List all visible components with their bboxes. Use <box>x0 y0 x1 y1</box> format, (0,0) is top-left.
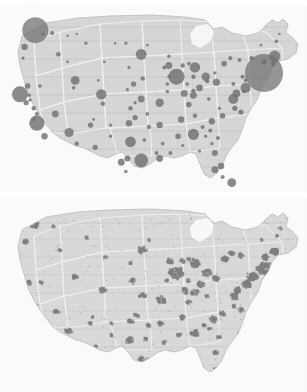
metro-circle <box>201 125 205 129</box>
metro-circle <box>169 69 185 85</box>
urban-patch <box>23 297 29 304</box>
metro-circle <box>38 84 42 88</box>
metro-circle <box>269 51 280 62</box>
metro-circle <box>141 76 145 80</box>
metro-circle <box>128 106 132 110</box>
metro-circle <box>213 71 216 74</box>
metro-circle <box>127 66 130 69</box>
metro-circle <box>190 92 197 99</box>
us-map-circles-svg <box>0 6 307 192</box>
metro-circle <box>32 118 35 121</box>
metro-circle <box>124 156 130 162</box>
metro-circle <box>207 97 211 101</box>
metro-circle <box>181 144 184 147</box>
metro-circle <box>25 83 31 89</box>
metro-circle <box>35 112 39 116</box>
metro-circle <box>165 62 172 69</box>
metro-circle <box>201 72 209 80</box>
metro-circle <box>142 138 146 142</box>
urban-patch <box>123 355 129 361</box>
metro-circle <box>209 118 215 124</box>
urban-patch <box>186 278 191 283</box>
metro-circle <box>212 150 218 156</box>
metro-circle <box>191 74 195 78</box>
metro-circle <box>178 116 184 122</box>
metro-circle <box>103 60 106 63</box>
metro-circle <box>227 178 236 187</box>
urban-patch <box>41 332 47 338</box>
map-stage-top <box>0 6 307 192</box>
metro-circle <box>109 123 112 126</box>
metro-circle <box>208 129 212 133</box>
metro-circle <box>278 33 280 35</box>
urban-patch <box>216 335 222 340</box>
metro-circle <box>21 56 24 59</box>
metro-circle <box>221 175 225 179</box>
metro-circle <box>181 90 188 97</box>
metro-circle <box>24 100 29 105</box>
metro-circle <box>126 88 129 91</box>
metro-circle <box>193 114 197 118</box>
two-panel-us-map-figure: ... . . <box>0 0 307 392</box>
metro-circle <box>162 65 166 69</box>
metro-circle <box>220 113 226 119</box>
metro-circle <box>156 122 162 128</box>
metro-circle <box>32 106 36 110</box>
metro-circle <box>196 84 203 91</box>
metro-circle <box>188 129 199 140</box>
metro-circle <box>42 33 45 36</box>
metro-circle <box>96 89 106 99</box>
metro-circle <box>64 128 73 137</box>
metro-circle <box>72 86 76 90</box>
urban-patch <box>227 380 237 388</box>
metro-circle <box>213 79 220 86</box>
metro-circle <box>155 99 163 107</box>
metro-circle <box>221 61 227 67</box>
metro-circle <box>155 151 159 155</box>
metro-circle <box>204 135 207 138</box>
metro-circle <box>27 93 31 97</box>
metro-circle <box>71 76 80 85</box>
metro-circle <box>101 101 105 105</box>
metro-circle <box>161 142 165 146</box>
metro-circle <box>244 79 248 83</box>
metro-circle <box>275 40 279 44</box>
metro-circle <box>241 75 245 79</box>
metro-circle <box>124 42 127 45</box>
urban-patch <box>157 356 165 362</box>
metro-circle <box>52 110 59 117</box>
metro-circle <box>205 79 209 83</box>
metro-circle <box>97 79 100 82</box>
metro-circle <box>218 163 224 169</box>
metro-circle <box>41 133 47 139</box>
urban-patch <box>124 370 130 374</box>
us-map-urban-svg <box>0 198 307 392</box>
metro-circle <box>84 42 87 45</box>
landmass-bottom <box>0 198 307 392</box>
metro-circle <box>180 63 184 67</box>
metro-circle <box>191 88 195 92</box>
proportional-circle-map-panel <box>0 6 307 192</box>
metro-circle <box>271 61 276 66</box>
urban-patch <box>110 332 114 337</box>
metro-circle <box>233 90 241 98</box>
metro-circle <box>12 86 28 102</box>
metro-circle <box>232 106 237 111</box>
metro-circle <box>22 17 48 43</box>
metro-circle <box>124 170 128 174</box>
metro-circle <box>190 62 200 72</box>
urbanized-area-map-panel <box>0 198 307 392</box>
metro-circle <box>175 133 181 139</box>
metro-circle <box>76 33 78 35</box>
metro-circle <box>131 82 136 87</box>
metro-circle <box>168 151 172 155</box>
metro-circle <box>93 145 98 150</box>
metro-circle <box>198 149 201 152</box>
metro-circle <box>56 52 61 57</box>
metro-circle <box>261 59 266 64</box>
metro-circle <box>166 82 170 86</box>
metro-circle <box>134 154 148 168</box>
metro-circle <box>156 155 163 162</box>
metro-circle <box>228 56 232 60</box>
metro-circle <box>28 98 31 101</box>
